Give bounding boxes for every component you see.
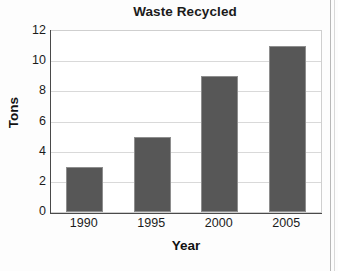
bar-1990[interactable]: [66, 167, 103, 212]
bar-cell: [254, 31, 322, 212]
x-axis-title: Year: [50, 238, 322, 253]
y-tick-0: 0: [2, 204, 46, 218]
plot-area: [50, 30, 322, 213]
bar-2000[interactable]: [201, 76, 238, 212]
y-axis-line: [50, 30, 51, 214]
bar-cell: [51, 31, 119, 212]
y-axis-tick-labels: 024681012: [0, 30, 46, 213]
x-tick-2005: 2005: [253, 216, 321, 230]
chart-figure: Waste Recycled Tons 024681012 1990199520…: [0, 0, 338, 271]
y-tick-6: 6: [2, 114, 46, 128]
y-tick-12: 12: [2, 23, 46, 37]
bar-2005[interactable]: [269, 46, 306, 212]
y-tick-10: 10: [2, 53, 46, 67]
y-tick-8: 8: [2, 83, 46, 97]
x-tick-2000: 2000: [185, 216, 253, 230]
bar-cell: [119, 31, 187, 212]
page-edge-line: [330, 0, 331, 271]
page-edge-line-outer: [334, 0, 335, 271]
x-axis-line: [50, 213, 322, 214]
bar-1995[interactable]: [134, 137, 171, 212]
x-axis-tick-labels: 1990199520002005: [50, 216, 322, 236]
x-tick-1990: 1990: [50, 216, 118, 230]
y-tick-4: 4: [2, 144, 46, 158]
chart-title: Waste Recycled: [40, 4, 330, 19]
bar-cell: [186, 31, 254, 212]
y-tick-2: 2: [2, 174, 46, 188]
x-tick-1995: 1995: [118, 216, 186, 230]
